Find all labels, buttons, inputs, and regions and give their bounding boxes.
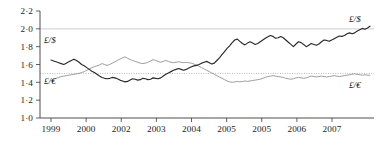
x-axis-ticks-group	[51, 118, 332, 122]
series-label-gbp-eur-left: £/€	[44, 76, 56, 86]
y-axis-tick-label: 1·0	[20, 113, 33, 123]
x-axis-tick-label: 2005	[217, 124, 236, 134]
x-axis-tick-label: 2006	[287, 124, 306, 134]
y-axis-tick-label: 2·0	[20, 24, 33, 34]
x-axis-tick-label: 2003	[147, 124, 166, 134]
y-axis-ticks-group	[36, 11, 40, 118]
series-label-gbp-eur-right: £/€	[349, 80, 361, 90]
exchange-rate-chart: 2·22·01·81·61·41·21·0 199920002002200320…	[0, 0, 379, 143]
gridlines-group	[40, 29, 374, 74]
x-axis-tick-label: 2007	[323, 124, 342, 134]
y-axis-tick-label: 1·6	[20, 60, 33, 70]
series-label-gbp-usd-left: £/$	[44, 35, 56, 45]
x-axis-tick-label: 2002	[112, 124, 131, 134]
x-axis-labels-group: 199920002002200320042005200520062007	[42, 124, 342, 134]
series-line-gbp-eur	[51, 57, 370, 82]
series-label-gbp-usd-right: £/$	[349, 14, 361, 24]
chart-canvas: 2·22·01·81·61·41·21·0 199920002002200320…	[0, 0, 379, 143]
x-axis-tick-label: 2004	[182, 124, 201, 134]
y-axis-labels-group: 2·22·01·81·61·41·21·0	[20, 6, 33, 123]
y-axis-tick-label: 1·8	[20, 42, 33, 52]
y-axis-tick-label: 1·2	[20, 95, 33, 105]
x-axis-tick-label: 2005	[252, 124, 271, 134]
y-axis-tick-label: 1·4	[20, 78, 33, 88]
x-axis-tick-label: 2000	[77, 124, 96, 134]
x-axis-tick-label: 1999	[42, 124, 61, 134]
y-axis-tick-label: 2·2	[20, 6, 33, 16]
